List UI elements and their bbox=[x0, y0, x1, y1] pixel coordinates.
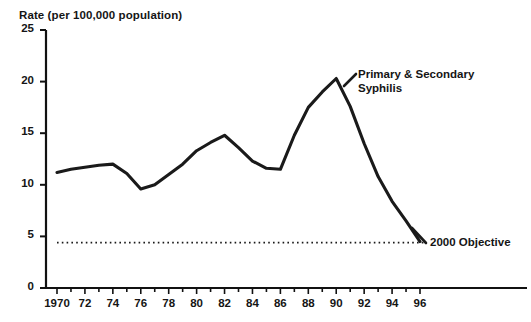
y-tick-label: 25 bbox=[4, 22, 34, 34]
y-tick-label: 0 bbox=[4, 280, 34, 292]
y-tick-label: 15 bbox=[4, 125, 34, 137]
data-line-primary-secondary-syphilis bbox=[57, 79, 420, 242]
y-tick-label: 10 bbox=[4, 177, 34, 189]
series-label-primary-secondary-syphilis: Primary & Secondary Syphilis bbox=[358, 68, 474, 95]
chart-title: Rate (per 100,000 population) bbox=[19, 9, 182, 21]
syphilis-rate-chart: Rate (per 100,000 population) 0510152025… bbox=[0, 0, 531, 322]
leader-line-series bbox=[344, 74, 356, 86]
plot-area bbox=[0, 0, 531, 322]
series-group bbox=[57, 74, 426, 243]
x-tick-label: 96 bbox=[394, 297, 446, 309]
y-tick-label: 5 bbox=[4, 228, 34, 240]
series-label-2000-objective: 2000 Objective bbox=[430, 236, 511, 248]
y-tick-label: 20 bbox=[4, 74, 34, 86]
